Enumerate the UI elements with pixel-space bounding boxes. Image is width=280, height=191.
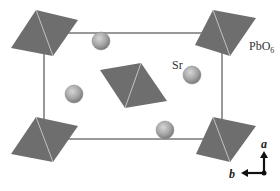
sr-atom-sphere xyxy=(156,121,174,139)
arrow-up-icon xyxy=(260,151,268,158)
sr-label: Sr xyxy=(172,58,183,72)
pbo6-label: PbO6 xyxy=(249,39,274,55)
octahedron-bottom-right xyxy=(196,117,256,162)
sr-atom-sphere xyxy=(65,85,83,103)
pbo-text: PbO xyxy=(249,39,271,53)
octahedron-bottom-left xyxy=(11,117,78,162)
octahedron-center xyxy=(100,63,167,108)
octahedron-top-left xyxy=(11,10,78,56)
axis-a-label: a xyxy=(261,137,267,151)
pbo-subscript: 6 xyxy=(270,46,274,55)
sr-atom-sphere xyxy=(92,32,110,50)
arrow-left-icon xyxy=(241,169,248,177)
octahedron-top-right xyxy=(195,10,256,56)
sr-atom-sphere xyxy=(183,66,201,84)
axis-b-label: b xyxy=(229,167,235,181)
crystal-structure-diagram: PbO6 Sr a b xyxy=(0,0,280,191)
